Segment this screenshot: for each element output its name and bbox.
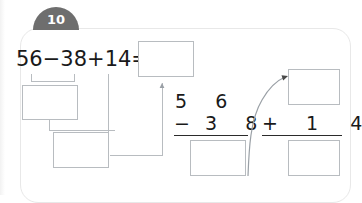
vertical-subtraction-subtrahend-row: − 3 8 bbox=[175, 112, 257, 134]
exercise-number-badge: 10 bbox=[33, 7, 79, 30]
connector-up-to-answer bbox=[162, 83, 163, 156]
connector-addend-down bbox=[108, 74, 109, 132]
vertical-subtraction-minuend: 5 6 bbox=[175, 90, 227, 112]
horizontal-equation-text: 56−38+14= bbox=[16, 47, 149, 71]
partial-difference-box-upper[interactable] bbox=[22, 85, 78, 120]
exercise-number-label: 10 bbox=[33, 12, 79, 27]
subtraction-operator-symbol: − bbox=[174, 112, 190, 134]
subtraction-rule-line bbox=[174, 135, 248, 136]
final-answer-box[interactable] bbox=[138, 41, 194, 77]
addition-operator-symbol: + bbox=[262, 112, 278, 134]
connector-upper-box-right bbox=[49, 130, 115, 131]
addition-result-box[interactable] bbox=[288, 140, 340, 176]
page-edge-shadow bbox=[0, 0, 5, 195]
addend-tens-digit: 1 bbox=[306, 112, 318, 134]
bracket-span-line bbox=[31, 81, 75, 82]
subtraction-result-box[interactable] bbox=[190, 140, 246, 176]
subtrahend-tens-digit: 3 bbox=[205, 112, 217, 134]
partial-difference-box-lower[interactable] bbox=[53, 132, 109, 168]
bracket-right-tick bbox=[74, 74, 75, 82]
connector-lower-box-right bbox=[110, 155, 163, 156]
minuend-tens-digit: 5 bbox=[175, 90, 187, 112]
addition-augend-box[interactable] bbox=[288, 69, 340, 105]
addend-ones-digit: 4 bbox=[350, 112, 362, 134]
minuend-ones-digit: 6 bbox=[215, 90, 227, 112]
vertical-addition-addend-row: + 1 4 bbox=[262, 112, 362, 134]
subtrahend-ones-digit: 8 bbox=[245, 112, 257, 134]
addition-rule-line bbox=[262, 135, 342, 136]
